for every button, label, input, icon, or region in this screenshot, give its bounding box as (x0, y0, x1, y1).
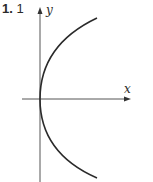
parabola-curve (40, 18, 97, 178)
y-axis-arrow-icon (38, 7, 43, 14)
y-axis-label: y (46, 3, 53, 17)
x-axis-arrow-icon (124, 97, 131, 102)
x-axis-label: x (124, 82, 131, 96)
